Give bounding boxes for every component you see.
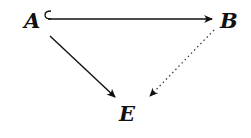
node-e: E [118, 101, 136, 126]
hook-icon [45, 11, 51, 19]
node-b: B [219, 8, 238, 33]
edge-a-to-e [50, 36, 115, 97]
commutative-diagram: A B E [0, 0, 251, 138]
edge-a-to-b-inclusion [45, 11, 212, 19]
edge-b-to-e-dotted [150, 30, 214, 96]
node-a: A [22, 8, 40, 33]
